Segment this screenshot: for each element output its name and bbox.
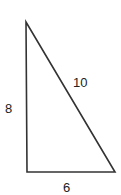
hypotenuse-label: 10 xyxy=(73,76,87,89)
triangle-figure xyxy=(0,0,121,195)
right-triangle xyxy=(26,22,115,172)
left-side-label: 8 xyxy=(5,102,12,115)
bottom-side-label: 6 xyxy=(63,181,70,194)
